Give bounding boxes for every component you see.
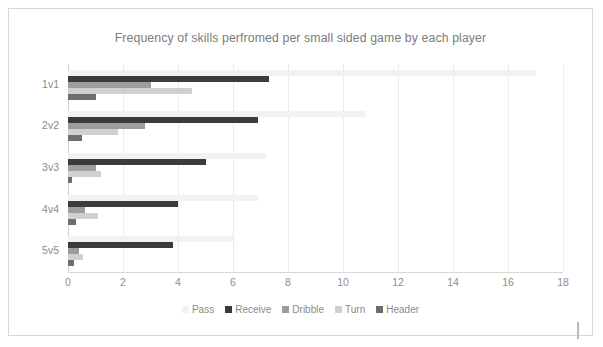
bar-header-4v4[interactable]: [68, 219, 76, 225]
legend-item-pass[interactable]: Pass: [182, 304, 214, 315]
bar-group-2v2: 2v2: [68, 111, 563, 141]
legend-label: Pass: [192, 304, 214, 315]
x-tick-label: 0: [65, 276, 71, 288]
legend-item-header[interactable]: Header: [376, 304, 419, 315]
bar-row: [68, 219, 563, 225]
category-label: 2v2: [42, 119, 59, 131]
bar-group-4v4: 4v4: [68, 195, 563, 225]
x-tick-label: 12: [392, 276, 404, 288]
legend-swatch-icon: [376, 306, 383, 313]
bar-group-3v3: 3v3: [68, 153, 563, 183]
bar-header-1v1[interactable]: [68, 94, 96, 100]
x-tick-label: 14: [447, 276, 459, 288]
plot-area: 1v12v23v34v45v5: [68, 64, 563, 272]
legend-label: Dribble: [292, 304, 324, 315]
bar-header-2v2[interactable]: [68, 135, 82, 141]
x-tick-label: 16: [502, 276, 514, 288]
legend-item-receive[interactable]: Receive: [225, 304, 271, 315]
x-axis-line: [68, 272, 563, 273]
legend-swatch-icon: [182, 306, 189, 313]
x-tick-label: 4: [175, 276, 181, 288]
x-tick-label: 6: [230, 276, 236, 288]
bar-header-3v3[interactable]: [68, 177, 72, 183]
x-tick-label: 18: [557, 276, 569, 288]
bar-row: [68, 177, 563, 183]
category-label: 3v3: [42, 161, 59, 173]
legend-swatch-icon: [335, 306, 342, 313]
category-label: 5v5: [42, 244, 59, 256]
bar-group-1v1: 1v1: [68, 70, 563, 100]
x-tick-label: 8: [285, 276, 291, 288]
x-tick-label: 10: [337, 276, 349, 288]
corner-mark: [577, 322, 579, 339]
legend-label: Receive: [235, 304, 271, 315]
chart-legend: PassReceiveDribbleTurnHeader: [9, 304, 592, 315]
bar-group-5v5: 5v5: [68, 236, 563, 266]
category-label: 4v4: [42, 203, 59, 215]
legend-swatch-icon: [225, 306, 232, 313]
bar-header-5v5[interactable]: [68, 260, 74, 266]
legend-item-turn[interactable]: Turn: [335, 304, 365, 315]
gridline: [563, 64, 564, 272]
x-axis: 024681012141618: [68, 272, 563, 292]
bar-row: [68, 260, 563, 266]
bar-row: [68, 94, 563, 100]
chart-title: Frequency of skills perfromed per small …: [9, 31, 592, 45]
legend-label: Turn: [345, 304, 365, 315]
legend-item-dribble[interactable]: Dribble: [282, 304, 324, 315]
chart-container: Frequency of skills perfromed per small …: [8, 8, 593, 336]
category-label: 1v1: [42, 78, 59, 90]
bar-row: [68, 135, 563, 141]
legend-swatch-icon: [282, 306, 289, 313]
x-tick-label: 2: [120, 276, 126, 288]
legend-label: Header: [386, 304, 419, 315]
